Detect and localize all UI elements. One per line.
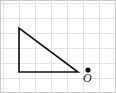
geometry-shapes — [0, 0, 116, 93]
origin-point-label: O — [83, 72, 92, 84]
geometry-figure: O — [0, 0, 116, 93]
right-triangle — [19, 28, 78, 72]
